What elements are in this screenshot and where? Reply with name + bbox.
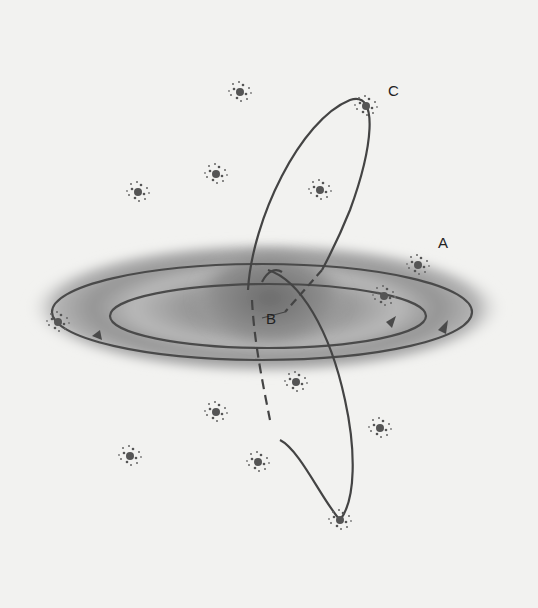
galaxy-orbit-diagram: C A B <box>0 0 538 608</box>
label-a: A <box>438 234 448 251</box>
diagram-canvas <box>0 0 538 608</box>
galactic-disk <box>26 240 506 376</box>
label-b: B <box>266 310 276 327</box>
label-c: C <box>388 82 399 99</box>
